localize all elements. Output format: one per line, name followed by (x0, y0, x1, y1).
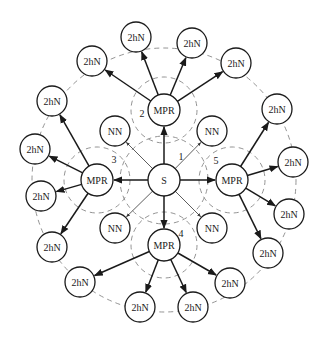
edge-s-nn3 (126, 191, 152, 217)
edge-s-nn4 (175, 191, 200, 216)
two-hop-node-t9-label: 2hN (268, 104, 285, 115)
one-hop-node-nn2-label: NN (205, 126, 219, 137)
two-hop-node-t15-label: 2hN (184, 302, 201, 313)
edge-mpr3-t5 (60, 115, 89, 166)
two-hop-node-t5: 2hN (37, 86, 67, 116)
two-hop-node-t14: 2hN (125, 292, 155, 322)
region-label-4: 4 (179, 228, 184, 239)
two-hop-node-t6: 2hN (20, 134, 50, 164)
two-hop-node-t12-label: 2hN (259, 248, 276, 259)
edge-mpr4-t15 (171, 259, 186, 292)
edge-mpr4-t13 (95, 251, 150, 275)
region-label-5: 5 (214, 155, 219, 166)
two-hop-node-t7-label: 2hN (32, 191, 49, 202)
two-hop-node-t16-label: 2hN (221, 278, 238, 289)
two-hop-node-t15: 2hN (178, 292, 208, 322)
region-label-2: 2 (140, 108, 145, 119)
mpr-node-mpr4: MPR (148, 229, 180, 261)
two-hop-node-t9: 2hN (262, 94, 292, 124)
two-hop-node-t14-label: 2hN (131, 302, 148, 313)
edge-mpr3-t7 (56, 184, 81, 191)
one-hop-node-nn4: NN (197, 213, 227, 243)
one-hop-node-nn4-label: NN (205, 223, 219, 234)
region-label-3: 3 (112, 154, 117, 165)
two-hop-node-t8: 2hN (37, 232, 67, 262)
nodes: SMPRMPRMPRMPRNNNNNNNN2hN2hN2hN2hN2hN2hN2… (20, 22, 308, 322)
source-node-label: S (161, 175, 167, 186)
mpr-node-mpr4-label: MPR (153, 240, 174, 251)
one-hop-node-nn1: NN (100, 116, 130, 146)
mpr-network-diagram: SMPRMPRMPRMPRNNNNNNNN2hN2hN2hN2hN2hN2hN2… (0, 0, 327, 342)
edge-mpr2-t1 (142, 52, 159, 95)
two-hop-node-t4: 2hN (77, 46, 107, 76)
two-hop-node-t6-label: 2hN (26, 144, 43, 155)
two-hop-node-t4-label: 2hN (83, 56, 100, 67)
mpr-node-mpr5-label: MPR (221, 175, 242, 186)
two-hop-node-t13: 2hN (65, 267, 95, 297)
edge-mpr5-t10 (247, 167, 277, 176)
two-hop-node-t16: 2hN (215, 268, 245, 298)
two-hop-node-t1: 2hN (121, 22, 151, 52)
mpr-node-mpr2: MPR (148, 94, 180, 126)
edge-mpr4-t14 (146, 260, 158, 292)
two-hop-node-t7: 2hN (26, 181, 56, 211)
edge-s-nn1 (126, 142, 152, 168)
edge-mpr5-t11 (246, 188, 276, 206)
edge-mpr5-t9 (241, 123, 269, 167)
two-hop-node-t13-label: 2hN (71, 277, 88, 288)
edge-mpr3-t8 (61, 193, 88, 233)
edge-mpr2-t4 (105, 70, 151, 101)
source-node: S (148, 164, 180, 196)
two-hop-node-t11: 2hN (274, 199, 304, 229)
mpr-node-mpr3: MPR (81, 164, 113, 196)
edge-mpr2-t2 (170, 58, 186, 95)
mpr-node-mpr3-label: MPR (86, 175, 107, 186)
mpr-node-mpr5: MPR (216, 164, 248, 196)
region-label-1: 1 (179, 151, 184, 162)
two-hop-node-t3-label: 2hN (227, 58, 244, 69)
one-hop-node-nn1-label: NN (108, 126, 122, 137)
mpr-node-mpr2-label: MPR (153, 105, 174, 116)
two-hop-node-t12: 2hN (253, 238, 283, 268)
two-hop-node-t5-label: 2hN (43, 96, 60, 107)
two-hop-node-t10: 2hN (278, 147, 308, 177)
one-hop-node-nn3-label: NN (108, 223, 122, 234)
two-hop-node-t2-label: 2hN (183, 38, 200, 49)
one-hop-node-nn2: NN (197, 116, 227, 146)
two-hop-node-t10-label: 2hN (284, 157, 301, 168)
two-hop-node-t11-label: 2hN (280, 209, 297, 220)
edge-mpr3-t6 (49, 156, 82, 173)
edge-mpr2-t3 (177, 72, 222, 102)
two-hop-node-t3: 2hN (221, 48, 251, 78)
two-hop-node-t8-label: 2hN (43, 242, 60, 253)
one-hop-node-nn3: NN (100, 213, 130, 243)
two-hop-node-t1-label: 2hN (127, 32, 144, 43)
two-hop-node-t2: 2hN (177, 28, 207, 58)
